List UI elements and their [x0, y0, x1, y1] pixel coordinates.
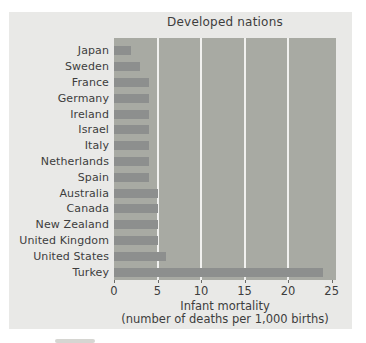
bar-row [114, 90, 336, 106]
figure-canvas: Developed nations JapanSwedenFranceGerma… [0, 0, 366, 343]
x-axis: 0510152025 [114, 280, 336, 298]
tick-label-10: 10 [194, 284, 209, 298]
bar-netherlands [114, 157, 149, 166]
category-label-row: Japan [9, 43, 109, 59]
bar-israel [114, 125, 149, 134]
x-axis-sublabel: (number of deaths per 1,000 births) [114, 312, 336, 326]
bar-row [114, 122, 336, 138]
bar-row [114, 106, 336, 122]
category-label-row: Netherlands [9, 154, 109, 170]
category-label-row: France [9, 75, 109, 91]
category-label-australia: Australia [59, 187, 109, 200]
bar-row [114, 169, 336, 185]
tick-mark-0 [114, 280, 115, 283]
category-label-row: United Kingdom [9, 233, 109, 249]
tick-label-0: 0 [110, 284, 117, 298]
bar-row [114, 185, 336, 201]
category-label-row: New Zealand [9, 217, 109, 233]
category-label-italy: Italy [85, 139, 109, 152]
bar-italy [114, 141, 149, 150]
tick-label-25: 25 [324, 284, 339, 298]
category-label-row: Italy [9, 138, 109, 154]
category-label-canada: Canada [67, 202, 109, 215]
bar-row [114, 138, 336, 154]
bar-united-states [114, 252, 166, 261]
bar-germany [114, 94, 149, 103]
category-label-new-zealand: New Zealand [36, 218, 109, 231]
category-label-row: United States [9, 248, 109, 264]
category-label-united-states: United States [33, 250, 109, 263]
category-label-ireland: Ireland [70, 108, 109, 121]
tick-mark-25 [332, 280, 333, 283]
tick-label-20: 20 [281, 284, 296, 298]
category-label-sweden: Sweden [65, 60, 109, 73]
tick-label-5: 5 [154, 284, 161, 298]
bar-spain [114, 173, 149, 182]
chart-title: Developed nations [114, 15, 336, 29]
bar-row [114, 43, 336, 59]
category-label-row: Spain [9, 169, 109, 185]
bar-japan [114, 46, 131, 55]
bars-container [114, 38, 336, 280]
bar-row [114, 59, 336, 75]
bar-row [114, 201, 336, 217]
bar-row [114, 264, 336, 280]
category-label-row: Ireland [9, 106, 109, 122]
category-label-turkey: Turkey [73, 266, 109, 279]
tick-label-15: 15 [237, 284, 252, 298]
category-label-japan: Japan [78, 44, 109, 57]
bar-row [114, 233, 336, 249]
bar-row [114, 154, 336, 170]
category-label-france: France [72, 76, 109, 89]
tick-mark-5 [158, 280, 159, 283]
bar-turkey [114, 268, 323, 277]
category-axis: JapanSwedenFranceGermanyIrelandIsraelIta… [9, 38, 109, 280]
bar-australia [114, 189, 158, 198]
category-label-israel: Israel [78, 123, 109, 136]
category-label-row: Turkey [9, 264, 109, 280]
category-label-netherlands: Netherlands [41, 155, 109, 168]
tick-mark-20 [288, 280, 289, 283]
tick-mark-15 [245, 280, 246, 283]
bar-row [114, 248, 336, 264]
category-label-row: Germany [9, 90, 109, 106]
cutoff-caption-fragment [55, 339, 95, 343]
bar-france [114, 78, 149, 87]
bar-united-kingdom [114, 236, 158, 245]
bar-ireland [114, 110, 149, 119]
plot-area [114, 38, 336, 280]
chart-panel: Developed nations JapanSwedenFranceGerma… [9, 12, 352, 329]
category-label-row: Australia [9, 185, 109, 201]
bar-row [114, 217, 336, 233]
category-label-row: Sweden [9, 59, 109, 75]
x-axis-label: Infant mortality [114, 299, 336, 313]
category-label-row: Israel [9, 122, 109, 138]
category-label-united-kingdom: United Kingdom [19, 234, 109, 247]
tick-mark-10 [201, 280, 202, 283]
category-label-germany: Germany [58, 92, 109, 105]
category-label-row: Canada [9, 201, 109, 217]
category-label-spain: Spain [78, 171, 109, 184]
bar-sweden [114, 62, 140, 71]
bar-row [114, 75, 336, 91]
bar-new-zealand [114, 220, 158, 229]
bar-canada [114, 204, 158, 213]
